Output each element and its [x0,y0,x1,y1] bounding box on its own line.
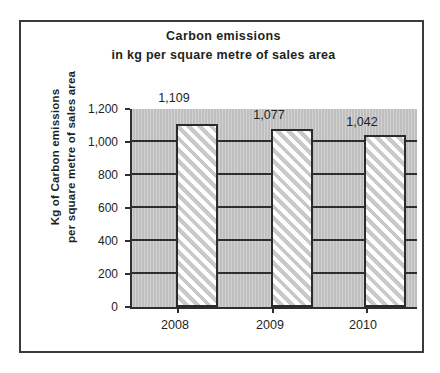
bar-value-2008: 1,109 [139,92,209,105]
x-tick-label-2008: 2008 [135,318,215,332]
bar-value-2009: 1,077 [234,109,304,122]
chart-title: Carbon emissions in kg per square metre … [21,27,426,65]
y-axis-title-line-1: Kg of Carbon emissions [47,52,63,262]
y-axis-title: Kg of Carbon emissions per square metre … [47,52,81,262]
y-tick-label-1000: 1,000 [58,136,118,148]
x-tick-mark-3 [366,307,368,313]
y-tick-label-200: 200 [58,268,118,280]
plot-area [130,109,417,309]
x-tick-mark-1 [177,307,179,313]
y-tick-label-1200: 1,200 [58,103,118,115]
x-tick-mark-2 [272,307,274,313]
bar-2008 [176,124,218,307]
chart-title-line-1: Carbon emissions [166,29,281,43]
bar-2009 [271,129,313,307]
y-tick-label-600: 600 [58,202,118,214]
chart-title-line-2: in kg per square metre of sales area [21,46,426,65]
y-axis-title-line-2: per square metre of sales area [63,52,79,262]
x-tick-label-2009: 2009 [230,318,310,332]
bar-value-2010: 1,042 [327,116,397,129]
y-tick-label-400: 400 [58,235,118,247]
y-tick-label-0: 0 [58,301,118,313]
bar-2010 [364,135,406,307]
x-tick-label-2010: 2010 [323,318,403,332]
chart-frame: Carbon emissions in kg per square metre … [19,20,424,353]
y-tick-label-800: 800 [58,169,118,181]
